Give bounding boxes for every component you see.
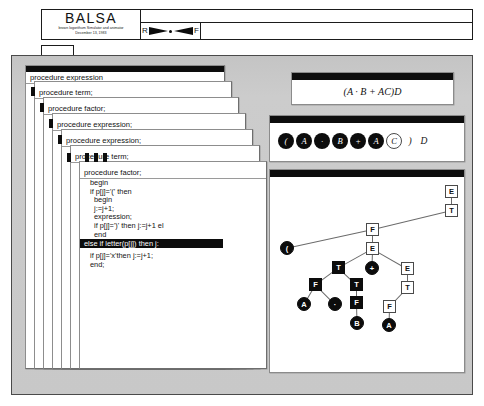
- window-resize-handle[interactable]: [31, 87, 35, 96]
- procedure-window-label: procedure term;: [39, 88, 93, 97]
- workspace-desktop: procedure expressionprocedure term;proce…: [11, 55, 473, 395]
- window-resize-handle[interactable]: [103, 153, 107, 162]
- parse-tree-node[interactable]: A: [297, 297, 311, 311]
- desktop-background: procedure expressionprocedure term;proce…: [12, 56, 472, 394]
- formula-panel: (A · B + AC)D: [291, 72, 454, 105]
- titlebar-upper-strip: [141, 10, 472, 23]
- token-consumed[interactable]: B: [332, 133, 348, 149]
- parse-tree-node[interactable]: T: [445, 204, 458, 217]
- playback-scrubber[interactable]: R F: [141, 23, 201, 39]
- titlebar-blank-area: [201, 23, 472, 39]
- parse-tree-canvas: ETF(ET+EFTTA·FFBA: [270, 177, 466, 374]
- balsa-window: BALSA brown logorithum Simulator and ani…: [0, 0, 484, 406]
- formula-text: (A · B + AC)D: [292, 86, 453, 97]
- code-line-current[interactable]: else if letter(p[j]) then j:: [80, 239, 223, 248]
- token-panel-titlebar[interactable]: [270, 116, 464, 123]
- token-pending[interactable]: ): [404, 133, 416, 149]
- code-line[interactable]: end: [86, 231, 263, 240]
- parse-tree-node[interactable]: B: [350, 316, 364, 330]
- window-resize-handle[interactable]: [94, 153, 98, 162]
- procedure-window-titlebar[interactable]: [26, 66, 224, 72]
- procedure-window-label: procedure factor;: [84, 168, 141, 177]
- parse-tree-node[interactable]: (: [280, 241, 294, 255]
- parse-tree-panel: ETF(ET+EFTTA·FFBA: [269, 169, 465, 373]
- titlebar-right: R F: [141, 10, 472, 39]
- parse-tree-node[interactable]: ·: [328, 297, 342, 311]
- parse-tree-node[interactable]: F: [366, 223, 379, 236]
- parse-tree-edge: [372, 210, 451, 230]
- code-line[interactable]: end;: [86, 261, 263, 270]
- token-consumed[interactable]: ·: [314, 133, 330, 149]
- token-consumed[interactable]: A: [368, 133, 384, 149]
- code-line[interactable]: if p[j]='(' then: [86, 188, 263, 197]
- parse-tree-node[interactable]: T: [350, 278, 363, 291]
- parse-tree-node[interactable]: F: [309, 278, 322, 291]
- procedure-window-label: procedure term;: [75, 152, 129, 161]
- parse-tree-panel-titlebar[interactable]: [270, 170, 464, 177]
- procedure-window-label: procedure expression;: [66, 136, 141, 145]
- forward-label: F: [193, 27, 200, 35]
- parse-tree-node[interactable]: F: [383, 300, 396, 313]
- procedure-window-label: procedure expression;: [57, 120, 132, 129]
- token-panel: (A·B+AC)D: [269, 115, 465, 162]
- parse-tree-node[interactable]: E: [401, 262, 414, 275]
- reverse-label: R: [141, 27, 149, 35]
- code-line[interactable]: if p[j]='x'then j:=j+1;: [86, 252, 263, 261]
- scrubber-track[interactable]: [149, 23, 193, 39]
- app-title: BALSA: [65, 11, 117, 26]
- parse-tree-node[interactable]: F: [350, 296, 363, 309]
- titlebar-lower-strip: R F: [141, 23, 472, 39]
- parse-tree-edge: [287, 229, 373, 248]
- parse-tree-node[interactable]: E: [366, 242, 379, 255]
- window-resize-handle[interactable]: [40, 103, 44, 112]
- parse-tree-node[interactable]: E: [445, 185, 458, 198]
- reverse-arrow-icon[interactable]: [149, 27, 168, 35]
- window-resize-handle[interactable]: [49, 119, 53, 128]
- formula-panel-titlebar[interactable]: [292, 73, 453, 80]
- parse-tree-node[interactable]: T: [332, 261, 345, 274]
- procedure-window-label: procedure factor;: [48, 104, 105, 113]
- procedure-stack: procedure expressionprocedure term;proce…: [25, 65, 249, 383]
- parse-tree-node[interactable]: A: [382, 318, 396, 332]
- token-current[interactable]: C: [386, 133, 402, 149]
- code-line[interactable]: if p[j]=')' then j:=j+1 el: [86, 222, 263, 231]
- window-resize-handle[interactable]: [58, 135, 62, 144]
- forward-arrow-icon[interactable]: [174, 27, 193, 35]
- source-code-view[interactable]: beginif p[j]='(' thenbeginj:=j+1;express…: [86, 179, 263, 269]
- app-identity: BALSA brown logorithum Simulator and ani…: [42, 10, 141, 39]
- parse-tree-node[interactable]: +: [365, 261, 379, 275]
- token-consumed[interactable]: A: [296, 133, 312, 149]
- parse-tree-node[interactable]: T: [401, 281, 414, 294]
- token-consumed[interactable]: (: [278, 133, 294, 149]
- scrubber-dot-icon[interactable]: [169, 30, 172, 33]
- token-pending[interactable]: D: [418, 133, 430, 149]
- window-resize-handle[interactable]: [67, 153, 71, 162]
- token-row: (A·B+AC)D: [278, 133, 430, 149]
- app-subtitle-line2: December 13, 1983: [75, 31, 106, 36]
- window-resize-handle[interactable]: [85, 153, 89, 162]
- token-consumed[interactable]: +: [350, 133, 366, 149]
- window-titlebar: BALSA brown logorithum Simulator and ani…: [41, 9, 473, 40]
- procedure-window[interactable]: procedure factor;beginif p[j]='(' thenbe…: [79, 161, 267, 369]
